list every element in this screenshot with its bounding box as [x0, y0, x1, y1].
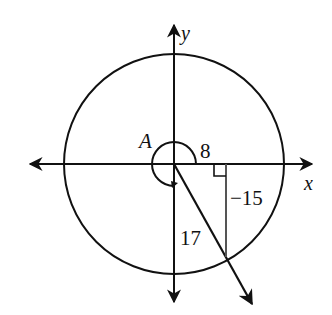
opposite-label: −15: [230, 186, 263, 210]
right-angle-marker: [214, 164, 226, 176]
x-axis-label: x: [303, 172, 313, 194]
angle-label: A: [137, 129, 152, 153]
hypotenuse-label: 17: [180, 226, 201, 250]
diagram-canvas: y x A 8 −15 17: [0, 0, 332, 315]
y-axis-label: y: [179, 22, 190, 45]
adjacent-label: 8: [200, 139, 211, 163]
